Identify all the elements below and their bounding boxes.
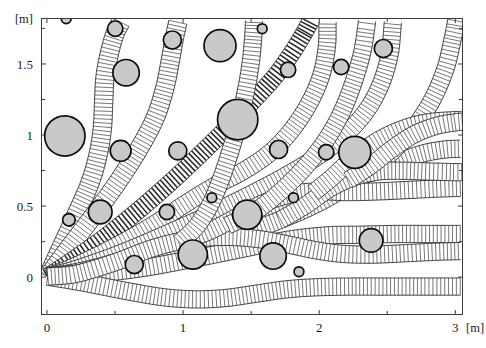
swath-tread [458,140,459,157]
obstacle-circle [178,240,207,269]
obstacle-circle [334,59,349,74]
y-tick-label: 1.5 [17,57,33,72]
obstacle-circle [218,99,258,139]
obstacle-circle [207,193,217,203]
swath-tread [388,162,389,179]
obstacle-circle [110,140,131,161]
obstacle-circle [159,204,174,219]
swath-tread [443,243,444,260]
obstacle-circle [339,136,371,168]
y-tick-label: 0 [27,270,34,285]
obstacle-circle [204,30,236,62]
obstacle-circle [319,145,334,160]
obstacle-circle [125,256,143,274]
figure-container: 012300.511.5 [m] [m] [0,0,486,348]
obstacle-circle [45,116,85,156]
x-tick-label: 2 [316,320,323,335]
path-swath-obstacle-plot: 012300.511.5 [m] [m] [0,0,486,348]
obstacle-circle [88,200,112,224]
x-axis-unit-label: [m] [466,321,484,335]
obstacle-circle [108,21,123,36]
obstacle-circle [169,142,187,160]
y-axis-unit-label: [m] [15,12,33,26]
obstacle-circle [289,193,299,203]
obstacle-circle [113,59,139,85]
x-tick-label: 3 [452,320,459,335]
x-tick-label: 0 [44,320,51,335]
obstacle-circle [257,24,267,34]
x-tick-label: 1 [180,320,187,335]
obstacle-circle [280,62,295,77]
y-tick-label: 0.5 [17,199,33,214]
obstacle-circle [163,31,181,49]
obstacle-circle [63,214,76,227]
obstacle-circle [359,229,383,253]
swath-tread [452,179,453,196]
swath-tread [456,179,457,196]
obstacle-circle [374,40,392,58]
swath-tread [449,180,450,197]
y-tick-label: 1 [27,128,34,143]
obstacle-circle [270,140,288,158]
figure-caption [4,337,482,348]
obstacle-circle [294,267,304,277]
obstacle-circle [260,243,286,269]
obstacle-circle [233,200,262,229]
